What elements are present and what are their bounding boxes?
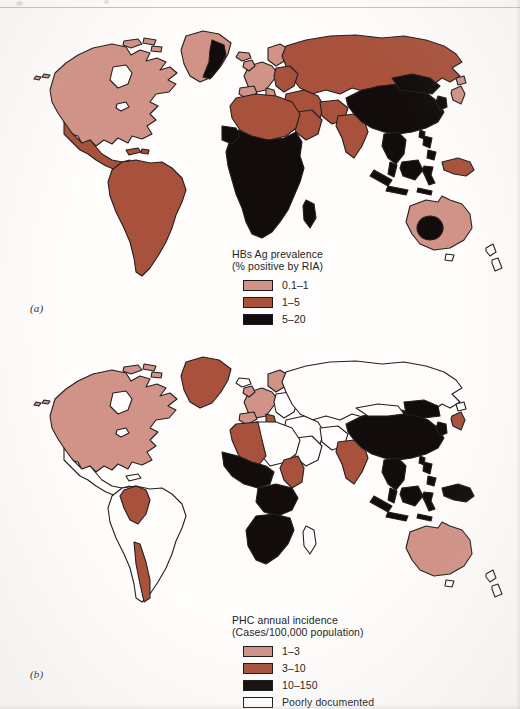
region-central-africa [256,484,298,516]
legend-row: 1–3 [232,644,374,659]
legend-row: 5–20 [232,312,323,327]
region-japan [451,86,465,104]
region-japan-hokkaido [456,76,466,85]
region-lesser-sunda [417,514,432,521]
region-new-zealand [492,258,502,271]
region-philippines [423,462,432,474]
region-sudan-ethiopia [280,456,304,488]
part-label-b: (b) [30,668,43,680]
legend-label: 1–5 [282,296,300,308]
region-australia [406,522,472,576]
region-arctic-islands [151,46,162,52]
legend-swatch [243,663,273,674]
legend-swatch [243,280,273,291]
region-philippines [427,476,436,486]
region-alaska-islands [42,400,50,404]
region-alaska-islands [34,76,41,80]
legend-title-line2: (% positive by RIA) [232,260,323,272]
scan-edge-shadow [0,704,520,709]
legend-swatch [243,680,273,691]
region-malay-peninsula [388,488,397,503]
region-sub-saharan-africa [226,130,304,238]
region-japan [451,412,465,430]
region-philippines [427,150,436,160]
part-label-a: (a) [30,302,43,314]
legend-row: 0.1–1 [232,278,323,293]
legend-row: 3–10 [232,661,374,676]
region-new-zealand [486,570,496,582]
region-eastern-europe-balkans [274,66,298,92]
legend-entries-a: 0.1–1 1–5 5–20 [232,278,323,327]
region-iceland [236,378,251,387]
legend-title-line1: PHC annual incidence [232,614,374,626]
legend-label: 5–20 [282,313,306,325]
region-arctic-islands [151,372,162,378]
region-alaska-islands [34,402,41,406]
region-madagascar [303,200,316,228]
region-new-guinea [442,158,474,176]
region-southern-africa [246,514,294,564]
region-tasmania [445,254,454,261]
legend-label: 0.1–1 [282,279,309,291]
legend-label: 10–150 [282,679,318,691]
region-new-zealand [486,244,496,256]
scan-rule-artifact [0,7,520,8]
scan-edge-shadow [516,0,520,709]
region-malay-peninsula [388,162,397,177]
scan-smudge-artifact [104,0,109,4]
region-java [386,186,408,195]
region-new-zealand [492,584,502,597]
legend-label: 1–3 [282,645,300,657]
region-caribbean [126,474,141,481]
region-indochina [382,458,406,490]
region-java [386,512,408,521]
region-lesser-sunda [417,188,432,195]
legend-title-line1: HBs Ag prevalence [232,248,323,260]
region-madagascar [303,526,316,554]
region-arctic-islands [123,365,142,374]
legend-entries-b: 1–3 3–10 10–150 Poorly documented [232,644,374,709]
region-arctic-islands [123,39,142,48]
region-caribbean [141,149,149,154]
region-sulawesi [422,166,435,185]
region-philippines [423,136,432,148]
figure-page: (a) HBs Ag prevalence (% positive by RIA… [0,0,520,709]
region-south-america [108,160,186,276]
region-central-australia [417,216,443,240]
region-borneo [400,160,423,180]
region-tasmania [445,580,454,587]
region-arctic-islands [143,364,156,371]
legend-swatch [243,314,273,325]
region-greenland [181,357,231,408]
region-caribbean [126,148,141,155]
region-indochina [382,132,406,164]
legend-label: 3–10 [282,662,306,674]
region-new-guinea [442,484,474,502]
legend-title-line2: (Cases/100,000 population) [232,626,374,638]
region-sulawesi [422,492,435,511]
legend-phc-incidence: PHC annual incidence (Cases/100,000 popu… [232,614,374,709]
region-japan-hokkaido [456,402,466,411]
legend-swatch [243,297,273,308]
region-alaska-islands [42,74,50,78]
region-arctic-islands [143,38,156,45]
legend-swatch [243,646,273,657]
legend-hbsag-prevalence: HBs Ag prevalence (% positive by RIA) 0.… [232,248,323,329]
legend-row: 10–150 [232,678,374,693]
region-iceland [236,52,251,61]
region-borneo [400,486,423,506]
legend-row: 1–5 [232,295,323,310]
scan-smudge-artifact [16,1,23,6]
